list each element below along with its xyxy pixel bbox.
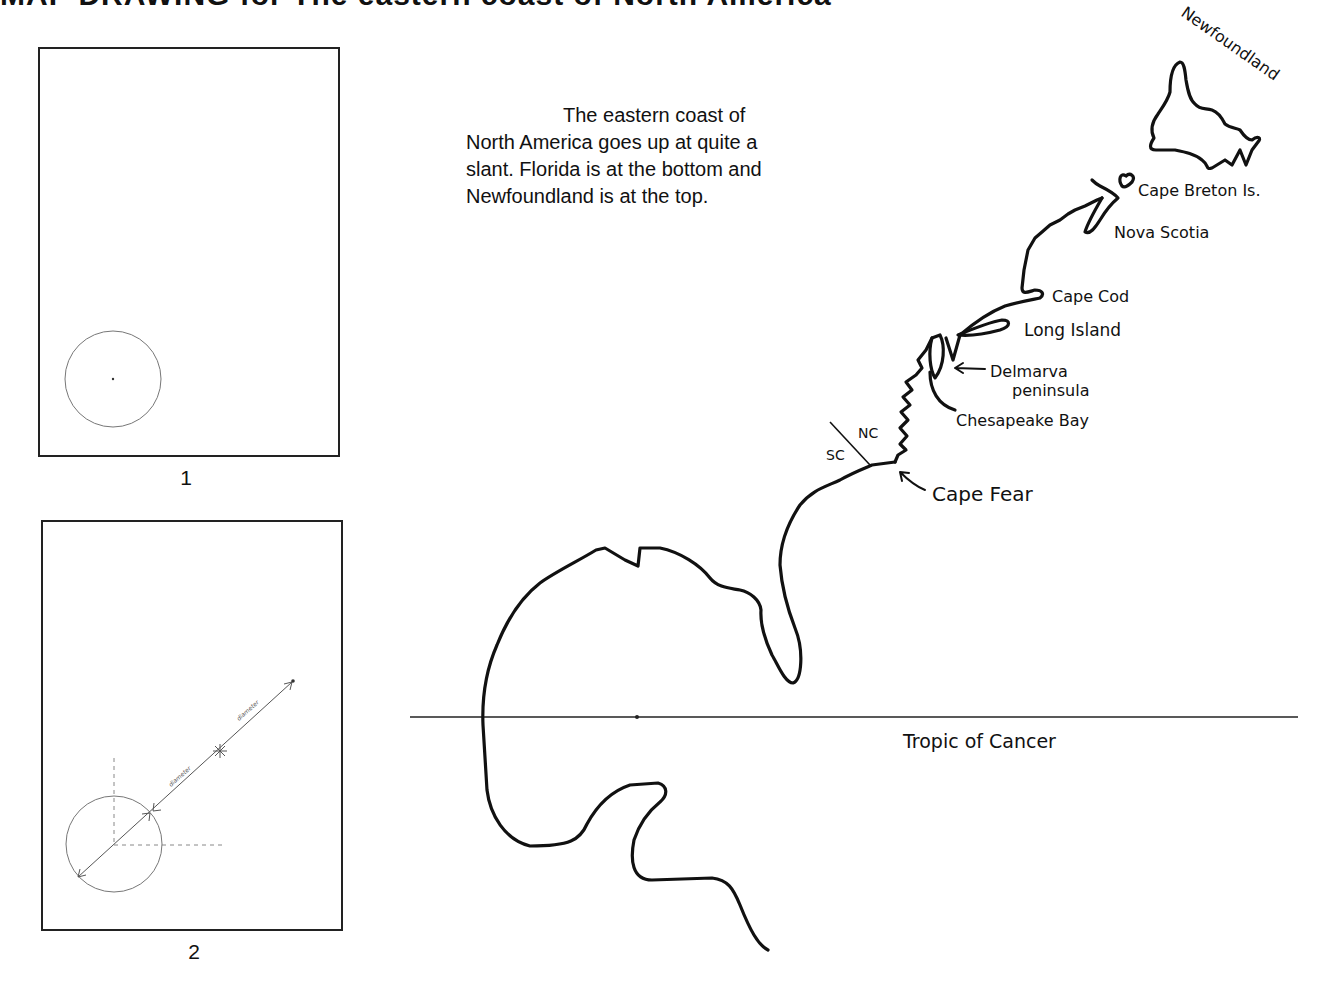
delmarva-outline bbox=[930, 335, 943, 378]
atlantic-coast-outline bbox=[895, 338, 932, 462]
cape-breton-outline bbox=[1120, 174, 1133, 186]
label-long-island: Long Island bbox=[1024, 320, 1121, 340]
label-chesapeake-bay: Chesapeake Bay bbox=[956, 411, 1089, 430]
label-sc: SC bbox=[826, 447, 845, 463]
label-tropic-of-cancer: Tropic of Cancer bbox=[902, 730, 1056, 752]
long-island-outline bbox=[958, 320, 1009, 335]
label-newfoundland: Newfoundland bbox=[1178, 3, 1283, 85]
gulf-coast-outline bbox=[483, 462, 895, 950]
newfoundland-outline bbox=[1151, 62, 1260, 169]
new-england-outline bbox=[960, 198, 1102, 335]
label-nc: NC bbox=[858, 425, 878, 441]
label-peninsula: peninsula bbox=[1012, 381, 1089, 400]
label-cape-cod: Cape Cod bbox=[1052, 287, 1129, 306]
coastline-map: Newfoundland Cape Breton Is. Nova Scotia… bbox=[0, 0, 1323, 991]
label-cape-fear: Cape Fear bbox=[932, 482, 1034, 506]
label-delmarva: Delmarva bbox=[990, 362, 1068, 381]
label-cape-breton: Cape Breton Is. bbox=[1138, 181, 1261, 200]
label-nova-scotia: Nova Scotia bbox=[1114, 223, 1209, 242]
